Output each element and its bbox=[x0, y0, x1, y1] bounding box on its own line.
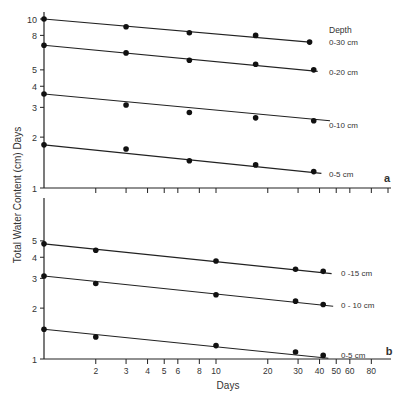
x-tick-label: 50 bbox=[331, 366, 341, 376]
data-point bbox=[41, 273, 47, 279]
panel-a-x-ticks bbox=[96, 188, 388, 193]
series-0-10-cm: 0 - 10 cm bbox=[41, 273, 374, 310]
data-point bbox=[311, 67, 317, 73]
data-point bbox=[123, 24, 129, 30]
data-point bbox=[187, 158, 193, 164]
data-point bbox=[93, 334, 99, 340]
fit-line bbox=[44, 244, 332, 274]
x-tick-label: 10 bbox=[211, 366, 221, 376]
fit-line bbox=[44, 94, 330, 121]
y-tick-label: 1 bbox=[32, 355, 37, 365]
y-tick-label: 8 bbox=[32, 31, 37, 41]
data-point bbox=[41, 42, 47, 48]
x-axis-label: Days bbox=[217, 380, 240, 391]
data-point bbox=[187, 110, 193, 116]
fit-line bbox=[44, 276, 333, 306]
panel-a-y-ticks: 12345810 bbox=[27, 15, 44, 194]
panel-b-x-ticks: 23456810203040506080 bbox=[93, 359, 376, 376]
series-label: 0-30 cm bbox=[329, 38, 358, 47]
data-point bbox=[253, 33, 259, 39]
series-label: 0-5 cm bbox=[341, 351, 366, 360]
data-point bbox=[213, 258, 219, 264]
y-tick-label: 4 bbox=[32, 82, 37, 92]
data-point bbox=[41, 16, 47, 22]
y-axis-label: Total Water Content (cm) Days bbox=[12, 127, 23, 263]
x-tick-label: 60 bbox=[345, 366, 355, 376]
x-tick-label: 4 bbox=[145, 366, 150, 376]
data-point bbox=[293, 349, 299, 355]
data-point bbox=[293, 298, 299, 304]
x-tick-label: 20 bbox=[263, 366, 273, 376]
data-point bbox=[293, 266, 299, 272]
data-point bbox=[253, 162, 259, 168]
data-point bbox=[307, 39, 313, 45]
x-tick-label: 5 bbox=[162, 366, 167, 376]
data-point bbox=[187, 30, 193, 36]
panel-a-series: 0-30 cm0-20 cm0-10 cm0-5 cm bbox=[41, 16, 358, 179]
fit-line bbox=[44, 145, 321, 174]
series-0-10-cm: 0-10 cm bbox=[41, 91, 358, 130]
data-point bbox=[123, 50, 129, 56]
panel-b-series: 0 -15 cm0 - 10 cm0-5 cm bbox=[41, 241, 374, 360]
legend-title: Depth bbox=[329, 25, 352, 35]
series-0-15-cm: 0 -15 cm bbox=[41, 241, 372, 278]
data-point bbox=[123, 102, 129, 108]
panel-b: 12345 23456810203040506080 0 -15 cm0 - 1… bbox=[32, 198, 393, 376]
data-point bbox=[41, 142, 47, 148]
series-label: 0 - 10 cm bbox=[341, 301, 375, 310]
data-point bbox=[311, 118, 317, 124]
data-point bbox=[320, 353, 326, 359]
y-tick-label: 4 bbox=[32, 253, 37, 263]
chart-figure: Total Water Content (cm) Days 12345810 0… bbox=[0, 0, 404, 399]
series-0-20-cm: 0-20 cm bbox=[41, 42, 358, 77]
fit-line bbox=[44, 329, 328, 358]
data-point bbox=[41, 326, 47, 332]
y-tick-label: 2 bbox=[32, 133, 37, 143]
x-tick-label: 40 bbox=[315, 366, 325, 376]
x-tick-label: 80 bbox=[367, 366, 377, 376]
data-point bbox=[41, 91, 47, 97]
series-label: 0-5 cm bbox=[329, 170, 354, 179]
data-point bbox=[187, 57, 193, 63]
y-tick-label: 5 bbox=[32, 236, 37, 246]
x-tick-label: 8 bbox=[197, 366, 202, 376]
y-tick-label: 3 bbox=[32, 274, 37, 284]
y-tick-label: 1 bbox=[32, 184, 37, 194]
panel-a: 12345810 0-30 cm0-20 cm0-10 cm0-5 cm Dep… bbox=[27, 12, 391, 194]
data-point bbox=[320, 302, 326, 308]
y-tick-label: 5 bbox=[32, 65, 37, 75]
panel-b-letter: b bbox=[386, 345, 393, 357]
data-point bbox=[93, 247, 99, 253]
series-0-5-cm: 0-5 cm bbox=[41, 326, 366, 360]
y-tick-label: 2 bbox=[32, 304, 37, 314]
data-point bbox=[93, 281, 99, 287]
data-point bbox=[213, 292, 219, 298]
x-tick-label: 6 bbox=[175, 366, 180, 376]
data-point bbox=[311, 169, 317, 175]
series-label: 0-10 cm bbox=[329, 121, 358, 130]
series-0-5-cm: 0-5 cm bbox=[41, 142, 354, 179]
data-point bbox=[320, 269, 326, 275]
y-tick-label: 3 bbox=[32, 103, 37, 113]
panel-b-y-ticks: 12345 bbox=[32, 236, 44, 364]
series-label: 0 -15 cm bbox=[341, 269, 372, 278]
data-point bbox=[41, 241, 47, 247]
x-tick-label: 3 bbox=[124, 366, 129, 376]
series-label: 0-20 cm bbox=[329, 68, 358, 77]
fit-line bbox=[44, 19, 310, 42]
y-tick-label: 10 bbox=[27, 15, 37, 25]
data-point bbox=[253, 115, 259, 121]
series-0-30-cm: 0-30 cm bbox=[41, 16, 358, 47]
panel-a-letter: a bbox=[384, 172, 391, 184]
fit-line bbox=[44, 45, 318, 71]
x-tick-label: 30 bbox=[293, 366, 303, 376]
data-point bbox=[213, 343, 219, 349]
data-point bbox=[253, 61, 259, 67]
x-tick-label: 2 bbox=[93, 366, 98, 376]
data-point bbox=[123, 146, 129, 152]
